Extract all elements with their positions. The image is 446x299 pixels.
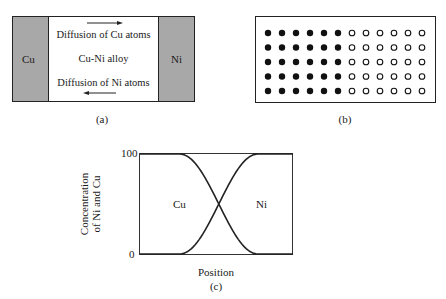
y-axis-label-line1: Concentration — [78, 173, 90, 235]
ni-concentration-curve — [140, 154, 293, 254]
concentration-profile-chart: 100 0 Concentration of Ni and Cu Cu Ni P… — [0, 0, 446, 299]
y-tick-100: 100 — [121, 147, 138, 159]
cu-curve-label: Cu — [173, 198, 186, 210]
caption-c: (c) — [201, 280, 231, 292]
plot-frame — [140, 154, 293, 255]
x-axis-label: Position — [186, 266, 246, 278]
ni-curve-label: Ni — [256, 198, 267, 210]
cu-concentration-curve — [140, 154, 293, 254]
y-tick-0: 0 — [129, 248, 135, 260]
y-axis-label-line2: of Ni and Cu — [90, 173, 102, 235]
